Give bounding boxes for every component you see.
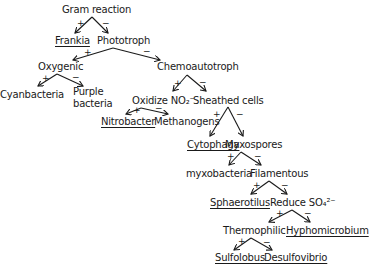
plus-sign: +: [276, 209, 284, 218]
node-sulfolobus: Sulfolobus: [215, 252, 265, 264]
minus-sign: −: [236, 110, 244, 119]
node-chemoautotroph: Chemoautotroph: [157, 61, 239, 73]
minus-sign: −: [143, 47, 151, 56]
node-thermophilic: Thermophilic: [223, 225, 286, 237]
node-sphaerotilus: Sphaerotilus: [210, 197, 270, 209]
minus-sign: −: [155, 104, 163, 113]
node-filamentous: Filamentous: [250, 168, 308, 180]
node-nitrobacter: Nitrobacter: [101, 116, 155, 128]
plus-sign: +: [238, 237, 246, 246]
plus-sign: +: [253, 181, 261, 190]
node-sheathed: Sheathed cells: [193, 95, 264, 107]
plus-sign: +: [213, 110, 221, 119]
node-myxobacteria: myxobacteria: [186, 168, 252, 180]
node-hyphomicrobium: Hyphomicrobium: [286, 225, 369, 237]
minus-sign: −: [304, 209, 312, 218]
plus-sign: +: [77, 19, 85, 28]
node-purple2: bacteria: [73, 98, 112, 110]
minus-sign: −: [254, 152, 262, 161]
node-cyanbacteria: Cyanbacteria: [0, 89, 64, 101]
plus-sign: +: [227, 152, 235, 161]
minus-sign: −: [263, 238, 271, 247]
node-methanogens: Methanogens: [154, 116, 219, 128]
minus-sign: −: [102, 19, 110, 28]
plus-sign: +: [133, 106, 141, 115]
node-oxidize: Oxidize NO₂⁻: [132, 95, 195, 107]
node-desulfovibrio: Desulfovibrio: [264, 252, 327, 264]
minus-sign: −: [199, 78, 207, 87]
plus-sign: +: [84, 48, 92, 57]
edge-arrow: [73, 48, 113, 60]
node-frankia: Frankia: [55, 35, 90, 47]
minus-sign: −: [281, 181, 289, 190]
minus-sign: −: [72, 73, 80, 82]
node-purple: Purple: [73, 86, 103, 98]
edge-arrow: [113, 48, 160, 60]
node-gram: Gram reaction: [62, 4, 131, 16]
node-myxospores: Myxospores: [225, 139, 282, 151]
plus-sign: +: [174, 79, 182, 88]
plus-sign: +: [42, 74, 50, 83]
